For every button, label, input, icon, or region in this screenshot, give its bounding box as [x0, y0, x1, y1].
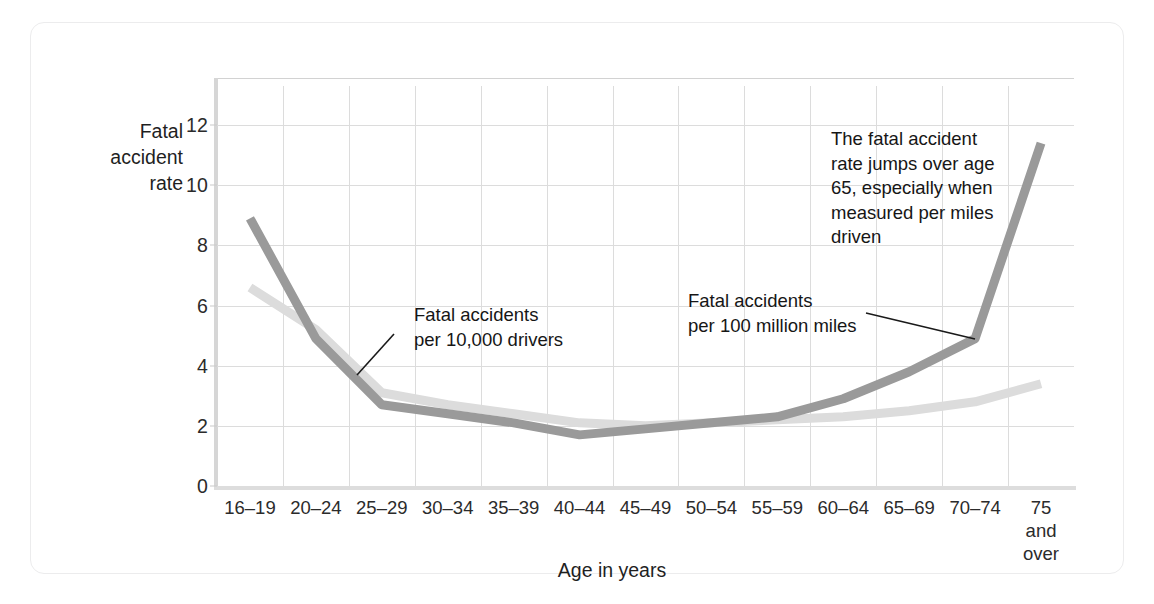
- y-tick-label: 0: [197, 475, 208, 498]
- x-tick-label: 65–69: [883, 496, 934, 519]
- figure-page: Fatal accident rate 024681012 Age in yea…: [0, 0, 1154, 604]
- x-axis-title: Age in years: [217, 559, 1007, 582]
- y-tick-mark: [210, 125, 217, 126]
- x-tick-label: 75 and over: [1023, 496, 1059, 565]
- x-tick-label: 16–19: [224, 496, 275, 519]
- y-tick-mark: [210, 365, 217, 366]
- y-tick-mark: [210, 245, 217, 246]
- y-tick-mark: [210, 486, 217, 487]
- y-tick-label: 8: [197, 234, 208, 257]
- annotation-drivers: Fatal accidents per 10,000 drivers: [414, 303, 563, 352]
- y-axis-title-line-1: Fatal: [87, 118, 183, 144]
- x-tick-label: 25–29: [356, 496, 407, 519]
- y-axis-title-line-2: accident: [87, 144, 183, 170]
- x-tick-label: 45–49: [620, 496, 671, 519]
- x-tick-label: 70–74: [949, 496, 1000, 519]
- y-axis-title: Fatal accident rate: [87, 118, 183, 196]
- x-tick-label: 60–64: [818, 496, 869, 519]
- y-tick-mark: [210, 185, 217, 186]
- y-tick-label: 10: [186, 174, 208, 197]
- x-tick-label: 55–59: [752, 496, 803, 519]
- x-tick-label: 40–44: [554, 496, 605, 519]
- y-tick-mark: [210, 425, 217, 426]
- y-tick-label: 12: [186, 114, 208, 137]
- y-axis-title-line-3: rate: [87, 170, 183, 196]
- annotation-miles: Fatal accidents per 100 million miles: [688, 289, 857, 338]
- y-tick-label: 6: [197, 294, 208, 317]
- x-tick-label: 50–54: [686, 496, 737, 519]
- y-tick-mark: [210, 305, 217, 306]
- x-tick-label: 30–34: [422, 496, 473, 519]
- y-tick-label: 2: [197, 414, 208, 437]
- y-tick-label: 4: [197, 354, 208, 377]
- figure-frame: Fatal accident rate 024681012 Age in yea…: [30, 22, 1124, 574]
- data-series-line: [250, 288, 1041, 426]
- x-axis-line: [214, 486, 1076, 490]
- annotation-age-jump: The fatal accident rate jumps over age 6…: [831, 127, 995, 250]
- x-tick-label: 35–39: [488, 496, 539, 519]
- plot-top-rule: [217, 78, 1074, 79]
- x-tick-label: 20–24: [290, 496, 341, 519]
